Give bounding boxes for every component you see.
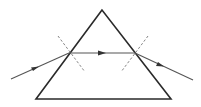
prism-triangle	[36, 10, 171, 99]
normal-line-entry	[58, 36, 85, 72]
normal-line-exit	[121, 36, 148, 72]
prism-refraction-diagram	[0, 0, 201, 107]
arrow-icon-incident	[31, 67, 39, 72]
arrow-icon-emergent	[156, 62, 164, 67]
arrow-icon-internal	[98, 51, 106, 56]
